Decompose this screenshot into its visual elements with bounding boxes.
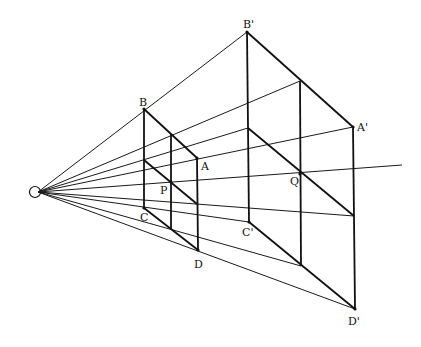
large-frame (247, 32, 355, 309)
label-C-prime: C' (242, 226, 253, 239)
point-D-prime (353, 307, 356, 310)
label-A-prime: A' (356, 121, 368, 134)
label-A: A (200, 160, 210, 173)
point-C-prime (247, 220, 250, 223)
ray-to-inner-top (38, 128, 248, 192)
ray-to-bottom-mid (38, 192, 301, 266)
label-B: B (139, 96, 147, 109)
point-A (195, 156, 198, 159)
label-Q: Q (290, 175, 299, 188)
edge-A-prime-D-prime (353, 127, 355, 309)
edge-A-D (197, 158, 198, 250)
edge-B-prime-C-prime (247, 32, 249, 222)
perspective-diagram: B A P C D B' A' Q C' D' (0, 0, 421, 347)
label-B-prime: B' (243, 18, 254, 31)
label-C: C (140, 211, 148, 224)
point-D (196, 248, 199, 251)
label-D: D (194, 258, 203, 271)
label-D-prime: D' (348, 315, 360, 328)
point-C (142, 206, 145, 209)
point-P (170, 181, 173, 184)
projection-rays (38, 32, 402, 309)
ray-to-A-prime (38, 127, 353, 192)
ray-to-B-prime (38, 32, 247, 192)
small-frame (144, 109, 198, 250)
point-A-prime (351, 125, 354, 128)
label-P: P (160, 184, 168, 197)
edge-C-prime-D-prime (249, 222, 355, 309)
vertex-labels: B A P C D B' A' Q C' D' (139, 18, 368, 328)
